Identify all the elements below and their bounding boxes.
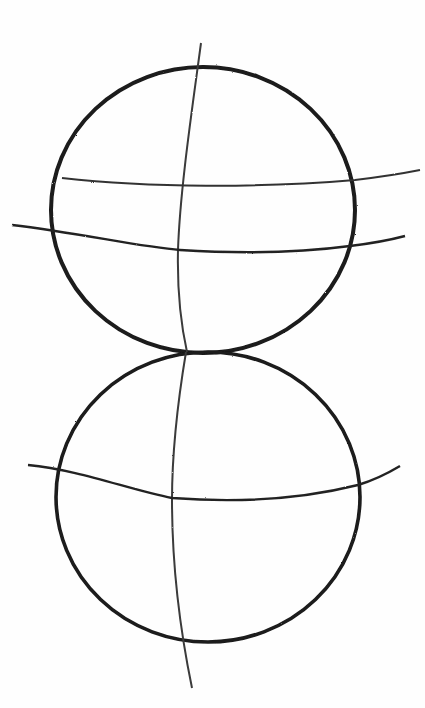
bottom-horizontal-guide [28,465,400,500]
top-vertical-guide [178,43,201,352]
top-horizontal-guide-1 [62,170,420,186]
sketch-drawing [0,0,425,708]
bottom-circle [56,352,360,642]
top-circle [51,67,355,353]
top-horizontal-guide-2 [12,225,405,252]
sketch-canvas: Pencil sketch of two stacked circles wit… [0,0,425,708]
